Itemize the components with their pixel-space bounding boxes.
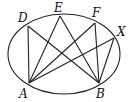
segments-layer [28, 16, 114, 83]
segment-ad [28, 26, 29, 83]
ellipse [8, 14, 120, 94]
point-label-d: D [17, 11, 28, 25]
ellipse-chord-diagram: A B D E F X [0, 0, 135, 102]
segment-bf [95, 23, 99, 83]
point-label-x: X [116, 25, 126, 39]
segment-ae [29, 16, 60, 83]
point-label-a: A [18, 87, 28, 101]
point-label-b: B [95, 87, 105, 101]
ellipse-layer [8, 14, 120, 94]
point-label-e: E [53, 1, 63, 15]
point-label-f: F [91, 6, 101, 20]
